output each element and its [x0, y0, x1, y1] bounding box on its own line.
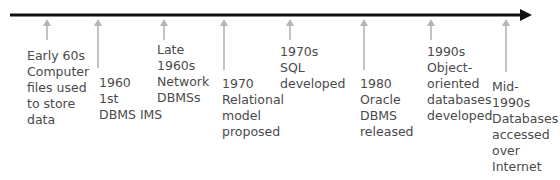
event-marker-arrow	[427, 19, 435, 40]
timeline-event-label: Late1960sNetworkDBMSs	[157, 42, 209, 106]
event-text-line: Internet	[492, 159, 558, 175]
event-text-line: Mid-	[492, 79, 558, 95]
event-marker-arrow	[360, 19, 368, 70]
timeline-event-label: 1990sObject-orienteddatabasesdeveloped	[427, 44, 492, 124]
event-text-line: proposed	[222, 124, 284, 140]
event-text-line: 1990s	[492, 95, 558, 111]
event-text-line: accessed	[492, 127, 558, 143]
event-marker-arrow	[94, 19, 102, 68]
timeline-arrowhead	[520, 9, 532, 21]
timeline-event-label: Early 60sComputerfiles usedto storedata	[27, 48, 89, 128]
timeline-event-label: Mid-1990sDatabasesaccessedoverInternet	[492, 79, 558, 175]
timeline-event-label: 1970sSQLdeveloped	[280, 44, 345, 92]
event-text-line: developed	[280, 76, 345, 92]
event-text-line: databases	[427, 92, 492, 108]
event-text-line: Network	[157, 74, 209, 90]
event-text-line: 1990s	[427, 44, 492, 60]
event-text-line: 1970s	[280, 44, 345, 60]
event-text-line: released	[360, 124, 414, 140]
event-text-line: data	[27, 112, 89, 128]
event-marker-arrow	[286, 19, 294, 40]
event-text-line: Relational	[222, 92, 284, 108]
event-text-line: Early 60s	[27, 48, 89, 64]
event-text-line: DBMSs	[157, 90, 209, 106]
event-text-line: 1960	[99, 75, 162, 91]
event-text-line: Oracle	[360, 92, 414, 108]
event-marker-arrow	[502, 19, 510, 72]
event-text-line: Late	[157, 42, 209, 58]
event-text-line: DBMS	[360, 108, 414, 124]
timeline-event-label: 19601stDBMS IMS	[99, 75, 162, 123]
event-text-line: Computer	[27, 64, 89, 80]
event-text-line: 1970	[222, 76, 284, 92]
event-text-line: oriented	[427, 76, 492, 92]
event-text-line: model	[222, 108, 284, 124]
event-text-line: Object-	[427, 60, 492, 76]
event-text-line: DBMS IMS	[99, 107, 162, 123]
event-text-line: developed	[427, 108, 492, 124]
event-text-line: Databases	[492, 111, 558, 127]
timeline-event-label: 1970Relationalmodelproposed	[222, 76, 284, 140]
event-text-line: SQL	[280, 60, 345, 76]
event-text-line: 1980	[360, 76, 414, 92]
event-marker-arrow	[220, 19, 228, 70]
timeline-event-label: 1980OracleDBMSreleased	[360, 76, 414, 140]
event-text-line: to store	[27, 96, 89, 112]
event-text-line: over	[492, 143, 558, 159]
event-text-line: 1960s	[157, 58, 209, 74]
event-marker-arrow	[160, 19, 168, 40]
event-text-line: files used	[27, 80, 89, 96]
event-marker-arrow	[43, 19, 51, 40]
event-text-line: 1st	[99, 91, 162, 107]
